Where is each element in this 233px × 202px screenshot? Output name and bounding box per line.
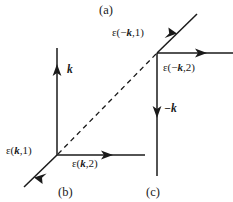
panel-b-vertical-axis: [53, 48, 62, 155]
eps-minus-k-1-arrowhead-icon: [165, 27, 177, 38]
eps-k-2-label: ε(k,2): [72, 158, 98, 169]
panel-label-c: (c): [146, 186, 160, 199]
eps-k-1-label: ε(k,1): [6, 145, 32, 156]
eps-k-1-suffix: ,1): [20, 144, 32, 156]
panel-label-a: (a): [99, 4, 113, 17]
eps-minus-k-2-prefix: ε(−: [163, 61, 178, 73]
eps-minus-k-1-prefix: ε(−: [112, 26, 127, 38]
panel-c-horizontal-axis: [157, 49, 233, 58]
eps-k-2-suffix: ,2): [86, 157, 98, 169]
physics-polarization-vector-figure: (a) (b) (c) k −k ε(k,1) ε(k,2) ε(−k,1) ε…: [0, 0, 233, 202]
panel-c-diagonal-axis: [157, 14, 197, 53]
panel-c-vertical-axis: [153, 53, 162, 176]
panel-label-b: (b): [58, 186, 73, 199]
eps-minus-k-1-label: ε(−k,1): [112, 27, 144, 38]
eps-minus-k-1-suffix: ,1): [132, 26, 144, 38]
k-vector-label: k: [67, 64, 73, 76]
minus-k-vector-label: −k: [164, 103, 177, 115]
panel-b-horizontal-axis: [57, 151, 145, 160]
eps-minus-k-2-suffix: ,2): [183, 61, 195, 73]
panel-b-diagonal-axis: [24, 155, 57, 187]
eps-minus-k-2-label: ε(−k,2): [163, 62, 195, 73]
